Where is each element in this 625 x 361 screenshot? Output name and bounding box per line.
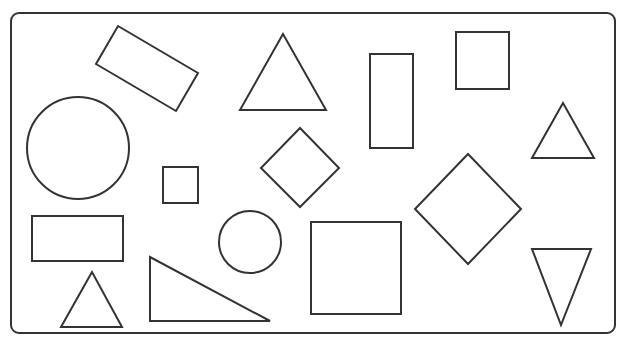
- large-square: [311, 222, 401, 314]
- inverted-triangle: [532, 249, 591, 325]
- tall-rectangle: [370, 54, 413, 148]
- small-circle: [219, 211, 281, 273]
- diamond-right: [415, 154, 521, 264]
- small-square: [163, 167, 198, 203]
- triangle-right: [532, 103, 594, 158]
- triangle-top-center: [240, 34, 326, 110]
- diamond-center: [261, 128, 339, 207]
- square-top-right: [456, 32, 509, 89]
- small-triangle: [61, 272, 122, 327]
- wide-rectangle: [32, 216, 123, 261]
- shapes-group: [27, 26, 594, 327]
- rotated-rectangle: [96, 26, 198, 111]
- shapes-canvas: [0, 0, 625, 361]
- shapes-diagram: [0, 0, 625, 361]
- diagram-frame: [11, 13, 615, 333]
- right-triangle: [150, 257, 270, 321]
- large-circle: [27, 97, 129, 199]
